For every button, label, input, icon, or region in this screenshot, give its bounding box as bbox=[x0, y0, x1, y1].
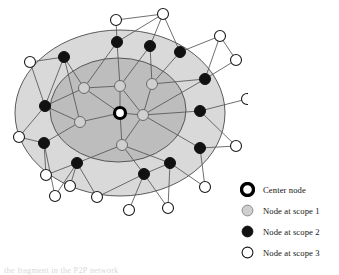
scope-2-node bbox=[112, 37, 123, 48]
graph-edge bbox=[180, 36, 220, 52]
scope-2-node bbox=[175, 47, 186, 58]
legend-item-scope-3: Node at scope 3 bbox=[236, 243, 339, 262]
scope-3-node bbox=[158, 9, 169, 20]
legend-item-scope-2: Node at scope 2 bbox=[236, 222, 339, 241]
scope-3-node bbox=[200, 182, 211, 193]
figure-caption: the fragment in the P2P network bbox=[4, 266, 119, 275]
gray-filled-circle-icon bbox=[236, 203, 258, 218]
scope-3-node bbox=[14, 132, 25, 143]
scope-1-node bbox=[75, 117, 86, 128]
scope-3-node bbox=[242, 94, 249, 105]
legend-label-center-node: Center node bbox=[258, 185, 306, 195]
legend: Center node Node at scope 1 Node at scop… bbox=[236, 180, 339, 264]
white-filled-circle-icon bbox=[236, 245, 258, 260]
legend-item-center-node: Center node bbox=[236, 180, 339, 199]
scope-1-node bbox=[147, 79, 158, 90]
scope-2-node bbox=[139, 169, 150, 180]
legend-item-scope-1: Node at scope 1 bbox=[236, 201, 339, 220]
scope-2-node bbox=[72, 158, 83, 169]
scope-2-node bbox=[195, 143, 206, 154]
scope-3-node bbox=[231, 141, 242, 152]
center-node-ring-icon bbox=[236, 182, 258, 197]
legend-label-scope-2: Node at scope 2 bbox=[258, 227, 320, 237]
scope-3-node bbox=[231, 55, 242, 66]
scope-3-node bbox=[41, 170, 52, 181]
scope-2-node bbox=[145, 41, 156, 52]
scope-1-node bbox=[138, 110, 149, 121]
black-filled-circle-icon bbox=[236, 224, 258, 239]
scope-3-node bbox=[92, 192, 103, 203]
scope-2-node bbox=[39, 138, 50, 149]
scope-3-node bbox=[111, 15, 122, 26]
scope-1-node bbox=[79, 83, 90, 94]
scope-3-node bbox=[65, 181, 76, 192]
scope-2-node bbox=[59, 52, 70, 63]
scope-3-node bbox=[50, 191, 61, 202]
scope-2-node bbox=[40, 101, 51, 112]
scope-3-node bbox=[215, 31, 226, 42]
center-node bbox=[115, 108, 126, 119]
graph-edge bbox=[116, 14, 163, 20]
scope-3-node bbox=[25, 57, 36, 68]
network-diagram bbox=[0, 0, 248, 252]
scope-2-node bbox=[195, 106, 206, 117]
scope-3-node bbox=[124, 205, 135, 216]
scope-1-node bbox=[115, 81, 126, 92]
graph-edge bbox=[205, 36, 220, 79]
scope-2-node bbox=[200, 74, 211, 85]
scope-2-node bbox=[165, 158, 176, 169]
scope-3-node bbox=[163, 203, 174, 214]
scope-1-node bbox=[117, 140, 128, 151]
legend-label-scope-3: Node at scope 3 bbox=[258, 248, 320, 258]
legend-label-scope-1: Node at scope 1 bbox=[258, 206, 320, 216]
